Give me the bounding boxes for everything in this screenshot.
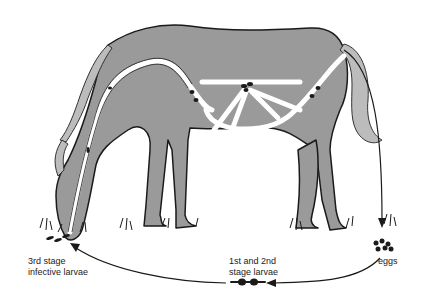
- grass: [40, 214, 396, 232]
- label-eggs: eggs: [378, 256, 398, 267]
- label-1st-2nd-stage-larvae: 1st and 2nd stage larvae: [229, 256, 278, 278]
- lifecycle-diagram: 3rd stage infective larvae 1st and 2nd s…: [0, 0, 428, 307]
- developing-larvae-icon: [230, 279, 266, 286]
- label-3rd-stage-larvae: 3rd stage infective larvae: [28, 256, 88, 278]
- eggs-icon: [374, 239, 394, 252]
